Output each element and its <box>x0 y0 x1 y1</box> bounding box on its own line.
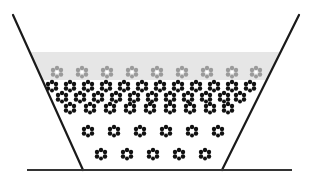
floc-particle-icon <box>218 91 230 104</box>
floc-particle-icon <box>200 91 212 104</box>
loose-row-1 <box>82 125 224 138</box>
floc-particle-icon <box>222 102 234 115</box>
floc-particle-icon <box>164 91 176 104</box>
packed-row-2 <box>56 91 246 104</box>
floc-particle-icon <box>92 91 104 104</box>
floc-particle-icon <box>182 91 194 104</box>
floc-particle-icon <box>212 125 224 138</box>
vessel-left-wall <box>13 15 83 170</box>
floc-particle-icon <box>74 91 86 104</box>
floc-particle-icon <box>134 125 146 138</box>
surface-gray-row <box>51 66 262 79</box>
vessel-right-wall <box>222 15 299 170</box>
floc-particle-icon <box>204 102 216 115</box>
floc-particle-icon <box>184 102 196 115</box>
floc-particle-icon <box>128 91 140 104</box>
floc-particle-icon <box>154 80 166 93</box>
floc-particle-icon <box>172 80 184 93</box>
floc-particle-icon <box>160 125 172 138</box>
floc-particle-icon <box>136 80 148 93</box>
floc-particle-icon <box>118 80 130 93</box>
floc-particle-icon <box>190 80 202 93</box>
floc-particle-icon <box>234 91 246 104</box>
packed-row-3 <box>64 102 234 115</box>
floc-particle-icon <box>108 125 120 138</box>
floc-particle-icon <box>199 148 211 161</box>
settling-vessel-diagram <box>0 0 309 187</box>
floc-particle-icon <box>64 102 76 115</box>
floc-particle-icon <box>147 148 159 161</box>
floc-particle-icon <box>244 80 256 93</box>
floc-particle-icon <box>186 125 198 138</box>
floc-particle-icon <box>164 102 176 115</box>
floc-particle-icon <box>173 148 185 161</box>
floc-particle-icon <box>144 102 156 115</box>
floc-particle-icon <box>121 148 133 161</box>
floc-particle-icon <box>110 91 122 104</box>
floc-particle-icon <box>208 80 220 93</box>
floc-particle-icon <box>84 102 96 115</box>
loose-row-2 <box>95 148 211 161</box>
floc-particle-icon <box>146 91 158 104</box>
floc-particle-icon <box>56 91 68 104</box>
floc-particle-icon <box>82 125 94 138</box>
floc-particle-icon <box>82 80 94 93</box>
floc-particle-icon <box>95 148 107 161</box>
floc-particle-icon <box>104 102 116 115</box>
floc-particle-icon <box>124 102 136 115</box>
particle-layers <box>46 66 262 161</box>
floc-particle-icon <box>226 80 238 93</box>
floc-particle-icon <box>64 80 76 93</box>
packed-row-1 <box>46 80 256 93</box>
floc-particle-icon <box>100 80 112 93</box>
